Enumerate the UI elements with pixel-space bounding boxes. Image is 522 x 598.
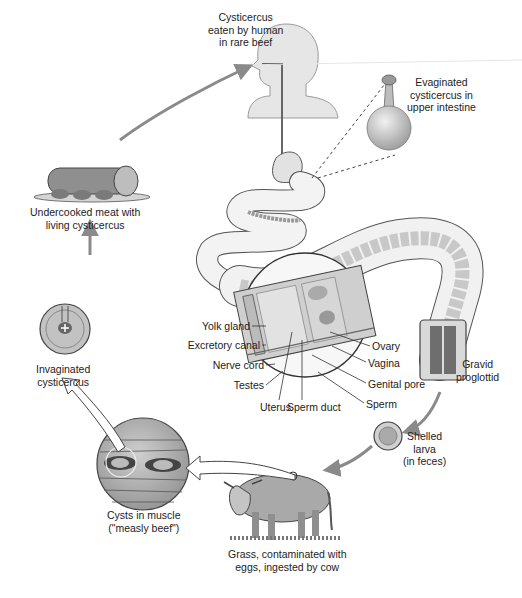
label-human-ingestion: Cysticercus eaten by human in rare beef [208,11,283,49]
label-undercooked-meat: Undercooked meat with living cysticercus [30,206,140,231]
label-invaginated: Invaginated cysticercus [36,363,90,388]
evaginated-cysticercus-icon [367,75,411,150]
label-excretory-canal: Excretory canal [150,339,260,352]
label-vagina: Vagina [368,357,400,370]
invaginated-cysticercus-icon [40,304,90,354]
label-sperm: Sperm [366,398,397,411]
label-nerve-cord: Nerve cord [170,359,264,372]
shelled-larva-icon [374,422,402,450]
label-yolk-gland: Yolk gland [170,320,250,333]
label-grass-cow: Grass, contaminated with eggs, ingested … [228,548,346,573]
label-sperm-duct: Sperm duct [287,401,341,414]
label-gravid-proglottid: Gravid proglottid [456,358,499,383]
label-shelled-larva: Shelled larva (in feces) [403,430,446,468]
label-genital-pore: Genital pore [368,378,425,391]
label-evaginated: Evaginated cysticercus in upper intestin… [407,76,476,114]
label-testes: Testes [180,379,264,392]
undercooked-meat-icon [34,166,150,202]
label-cysts-in-muscle: Cysts in muscle ("measly beef") [107,509,181,534]
label-ovary: Ovary [372,340,400,353]
cow-icon [224,472,340,540]
